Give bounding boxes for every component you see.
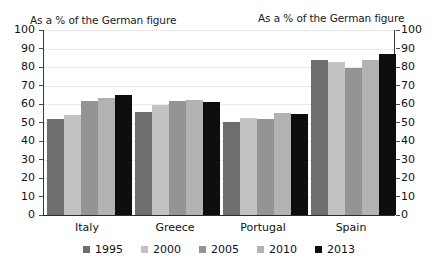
- bar: [152, 105, 169, 215]
- bar: [64, 115, 81, 215]
- bar-group: [223, 30, 308, 215]
- axis-tick-label: 60: [5, 98, 35, 109]
- axis-tick-mark: [39, 159, 43, 160]
- legend-item[interactable]: 2010: [257, 244, 297, 255]
- bar: [115, 95, 132, 215]
- axis-tick-mark: [39, 122, 43, 123]
- axis-tick-mark: [396, 104, 400, 105]
- bar: [345, 68, 362, 215]
- axis-tick-label: 20: [5, 172, 35, 183]
- x-axis-category-label: Spain: [307, 221, 395, 234]
- right-axis-caption: As a % of the German figure: [258, 12, 404, 24]
- axis-tick-label: 20: [401, 172, 427, 183]
- axis-tick-label: 10: [401, 191, 427, 202]
- axis-tick-label: 40: [5, 135, 35, 146]
- legend-item[interactable]: 2013: [315, 244, 355, 255]
- axis-tick-mark: [39, 48, 43, 49]
- axis-tick-label: 90: [401, 43, 427, 54]
- axis-tick-mark: [39, 178, 43, 179]
- legend-item[interactable]: 1995: [83, 244, 123, 255]
- axis-tick-mark: [39, 196, 43, 197]
- axis-tick-label: 0: [5, 209, 35, 220]
- axis-tick-label: 0: [401, 209, 427, 220]
- bar-group: [135, 30, 220, 215]
- axis-tick-mark: [396, 141, 400, 142]
- axis-tick-label: 30: [5, 154, 35, 165]
- legend-label: 2005: [211, 244, 239, 255]
- legend-label: 2013: [327, 244, 355, 255]
- bar: [186, 100, 203, 215]
- bar: [135, 112, 152, 215]
- axis-tick-label: 80: [5, 61, 35, 72]
- bar: [311, 60, 328, 215]
- plot-area: [43, 30, 395, 216]
- bar-chart: As a % of the German figure As a % of th…: [0, 0, 438, 270]
- legend-swatch-icon: [141, 246, 148, 253]
- legend-item[interactable]: 2000: [141, 244, 181, 255]
- axis-tick-mark: [396, 48, 400, 49]
- axis-tick-mark: [396, 67, 400, 68]
- bar: [328, 62, 345, 215]
- bar: [81, 101, 98, 215]
- x-axis-category-label: Portugal: [219, 221, 307, 234]
- bar: [203, 102, 220, 215]
- axis-tick-mark: [396, 85, 400, 86]
- axis-tick-label: 70: [401, 80, 427, 91]
- bar: [291, 114, 308, 215]
- bar-group: [311, 30, 396, 215]
- axis-tick-mark: [396, 30, 400, 31]
- axis-tick-mark: [39, 67, 43, 68]
- legend: 19952000200520102013: [0, 244, 438, 255]
- legend-label: 2000: [153, 244, 181, 255]
- legend-label: 2010: [269, 244, 297, 255]
- axis-tick-mark: [39, 85, 43, 86]
- legend-swatch-icon: [315, 246, 322, 253]
- axis-tick-mark: [396, 159, 400, 160]
- bar: [257, 119, 274, 215]
- legend-swatch-icon: [199, 246, 206, 253]
- axis-tick-label: 90: [5, 43, 35, 54]
- axis-tick-label: 50: [5, 117, 35, 128]
- bar: [362, 60, 379, 215]
- bar: [169, 101, 186, 215]
- bar-series-container: [43, 30, 395, 216]
- bar: [47, 119, 64, 215]
- axis-tick-label: 80: [401, 61, 427, 72]
- legend-swatch-icon: [257, 246, 264, 253]
- axis-tick-label: 30: [401, 154, 427, 165]
- bar: [223, 122, 240, 215]
- axis-tick-label: 100: [5, 24, 35, 35]
- axis-tick-mark: [396, 178, 400, 179]
- bar: [379, 54, 396, 215]
- axis-tick-label: 100: [401, 24, 427, 35]
- bar: [98, 98, 115, 215]
- axis-tick-mark: [39, 141, 43, 142]
- axis-tick-label: 10: [5, 191, 35, 202]
- axis-tick-label: 40: [401, 135, 427, 146]
- x-axis-category-label: Greece: [131, 221, 219, 234]
- axis-tick-label: 50: [401, 117, 427, 128]
- legend-item[interactable]: 2005: [199, 244, 239, 255]
- axis-tick-mark: [396, 215, 400, 216]
- bar: [274, 113, 291, 215]
- axis-tick-mark: [39, 215, 43, 216]
- legend-label: 1995: [95, 244, 123, 255]
- legend-swatch-icon: [83, 246, 90, 253]
- axis-tick-mark: [396, 122, 400, 123]
- axis-tick-mark: [39, 30, 43, 31]
- axis-tick-label: 60: [401, 98, 427, 109]
- bar: [240, 118, 257, 215]
- x-axis-category-label: Italy: [43, 221, 131, 234]
- axis-tick-mark: [396, 196, 400, 197]
- axis-tick-mark: [39, 104, 43, 105]
- axis-tick-label: 70: [5, 80, 35, 91]
- left-axis-caption: As a % of the German figure: [30, 14, 176, 26]
- bar-group: [47, 30, 132, 215]
